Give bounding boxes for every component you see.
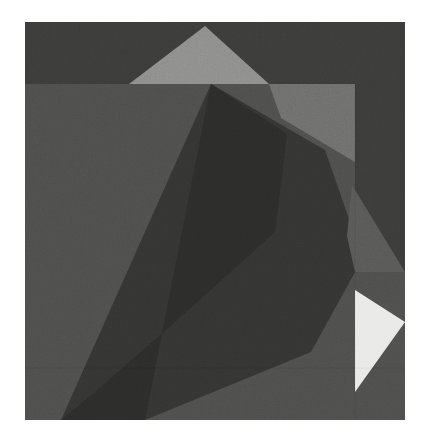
artwork-canvas	[25, 22, 405, 420]
artwork-svg	[25, 22, 405, 420]
screenshot-root	[0, 0, 427, 442]
